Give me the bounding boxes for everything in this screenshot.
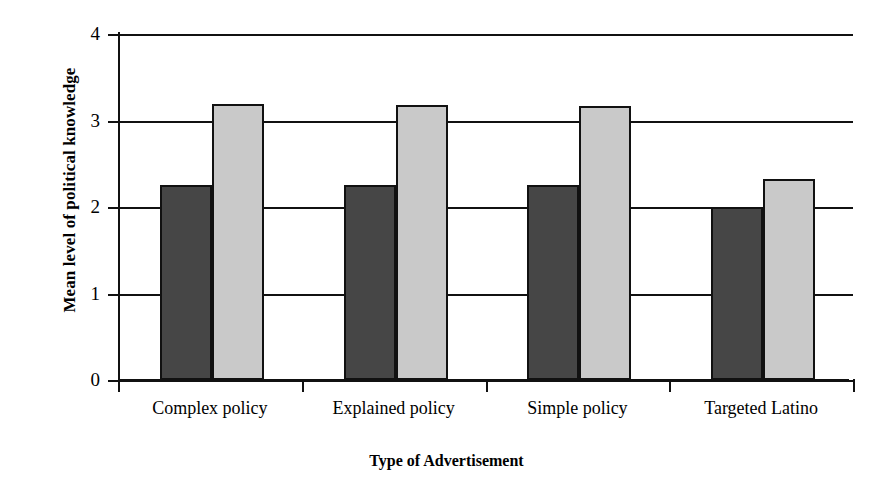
x-category-label-simple-policy: Simple policy [477,398,677,419]
x-tick-0 [118,379,120,392]
bar-simple-policy-series-1 [527,185,579,380]
x-tick-4 [853,379,855,392]
bar-chart-figure: Mean level of political knowledge 01234 … [0,0,893,487]
bar-complex-policy-series-2 [212,104,264,380]
x-tick-2 [486,379,488,392]
x-category-label-explained-policy: Explained policy [294,398,494,419]
bar-targeted-latino-series-1 [711,207,763,380]
y-tick-label-0: 0 [70,370,100,389]
x-tick-1 [302,379,304,392]
bar-explained-policy-series-2 [396,105,448,380]
y-tick-label-2: 2 [70,197,100,216]
bar-targeted-latino-series-2 [763,179,815,380]
bar-explained-policy-series-1 [344,185,396,380]
x-category-label-targeted-latino: Targeted Latino [661,398,861,419]
x-tick-3 [669,379,671,392]
bar-complex-policy-series-1 [160,185,212,380]
bar-simple-policy-series-2 [579,106,631,380]
x-category-label-complex-policy: Complex policy [110,398,310,419]
y-tick-label-3: 3 [70,111,100,130]
y-tick-label-4: 4 [70,24,100,43]
bars-layer [118,34,853,380]
y-tick-label-1: 1 [70,284,100,303]
y-axis-title: Mean level of political knowledge [60,0,80,390]
x-axis-title: Type of Advertisement [0,452,893,470]
